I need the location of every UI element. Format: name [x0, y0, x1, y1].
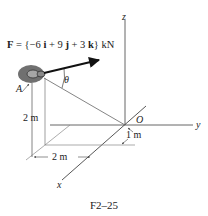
dim-vertical-2m: 2 m: [23, 113, 38, 123]
ground-line-diag: [45, 125, 70, 145]
z-axis-label: z: [122, 12, 126, 22]
force-arrow: [44, 60, 99, 73]
x-axis: [62, 106, 146, 180]
x-axis-label: x: [57, 180, 61, 190]
dim-offset-1m: 1 m: [126, 130, 141, 140]
diagram-canvas: [0, 0, 208, 216]
position-line-AO: [44, 78, 125, 125]
origin-label: O: [136, 115, 143, 125]
dim-horizontal-2m: 2 m: [52, 152, 67, 162]
point-A-label: A: [16, 84, 22, 94]
figure-caption: F2–25: [0, 200, 208, 211]
theta-label: θ: [64, 75, 69, 85]
y-axis-label: y: [196, 120, 200, 130]
force-vector-label: F = {−6 i + 9 j + 3 k} kN: [7, 40, 114, 51]
ground-line-front: [26, 145, 45, 160]
